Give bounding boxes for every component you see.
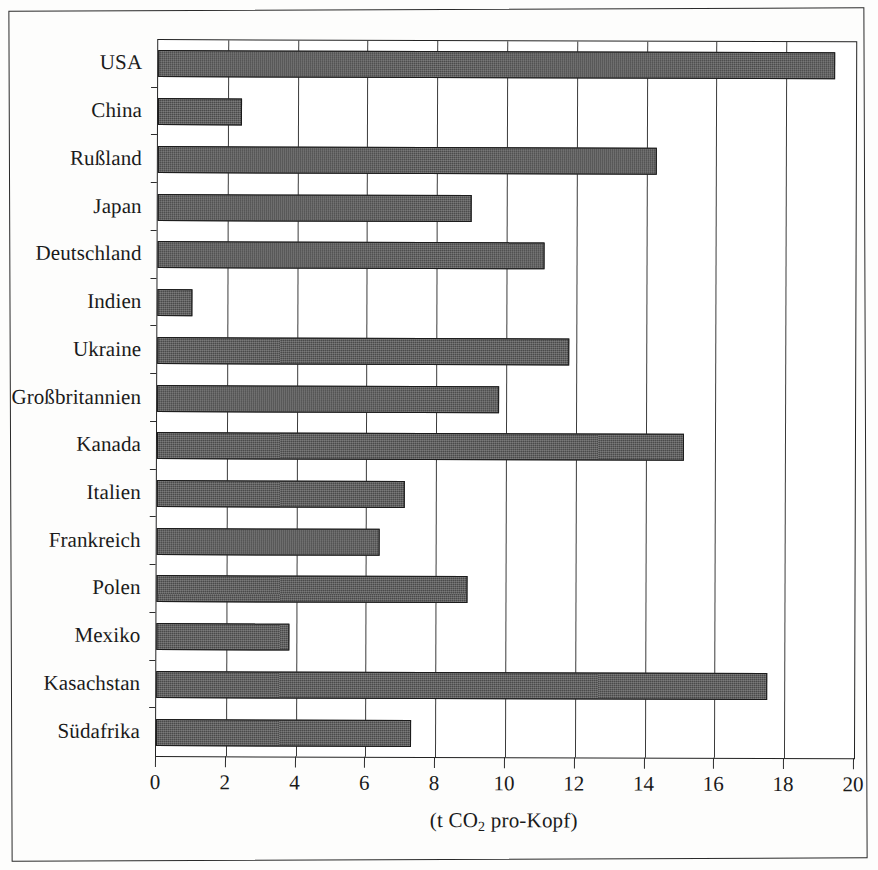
bar-row bbox=[158, 136, 856, 186]
y-axis-label-13: Kasachstan bbox=[7, 659, 149, 707]
x-axis-title-suffix: pro-Kopf) bbox=[485, 808, 577, 832]
y-axis-label-1: China bbox=[9, 86, 151, 134]
y-axis-label-3: Japan bbox=[9, 182, 151, 230]
chart-page: USAChinaRußlandJapanDeutschlandIndienUkr… bbox=[0, 0, 878, 870]
y-axis-label-12: Mexiko bbox=[7, 611, 149, 659]
x-axis-tick-label-10: 20 bbox=[842, 771, 863, 797]
bar-row bbox=[157, 231, 855, 281]
x-axis-tick-label-4: 8 bbox=[429, 770, 440, 796]
y-axis-label-7: Großbritannien bbox=[8, 373, 150, 421]
bar-row bbox=[158, 40, 856, 90]
bar-ukraine bbox=[157, 337, 569, 365]
bar-row bbox=[156, 565, 854, 615]
y-axis-label-8: Kanada bbox=[8, 421, 150, 469]
bar-row bbox=[157, 327, 855, 377]
x-axis-tick-label-5: 10 bbox=[493, 770, 514, 796]
bar-row bbox=[156, 661, 854, 711]
y-axis-label-0: USA bbox=[9, 39, 151, 87]
x-axis-tick-18 bbox=[783, 758, 784, 769]
x-axis-tick-10 bbox=[504, 757, 505, 768]
y-axis-label-5: Indien bbox=[8, 277, 150, 325]
x-axis-tick-label-0: 0 bbox=[150, 769, 161, 795]
bar-chart: USAChinaRußlandJapanDeutschlandIndienUkr… bbox=[0, 0, 878, 870]
bar-china bbox=[158, 98, 242, 125]
bar-row bbox=[157, 422, 855, 472]
bar-mexiko bbox=[156, 623, 289, 650]
x-axis-tick-labels: 02468101214161820 bbox=[155, 769, 853, 801]
bar-row bbox=[157, 470, 855, 520]
bar-row bbox=[157, 517, 855, 567]
bar-row bbox=[157, 279, 855, 329]
bar-row bbox=[158, 183, 856, 233]
bar-row bbox=[157, 374, 855, 424]
x-axis-tick-label-7: 14 bbox=[633, 771, 654, 797]
x-axis-tick-0 bbox=[155, 756, 156, 767]
bar-row bbox=[156, 708, 854, 758]
y-axis-label-4: Deutschland bbox=[8, 230, 150, 278]
bar-gro-britannien bbox=[157, 385, 499, 413]
x-axis-tick-label-6: 12 bbox=[563, 770, 584, 796]
y-axis-label-11: Polen bbox=[7, 564, 149, 612]
x-axis-tick-label-3: 6 bbox=[359, 770, 370, 796]
plot-area bbox=[155, 39, 857, 759]
bar-usa bbox=[158, 50, 835, 79]
x-axis-tick-20 bbox=[853, 758, 854, 769]
bar-italien bbox=[157, 480, 405, 508]
bar-kanada bbox=[157, 432, 684, 461]
bar-series bbox=[156, 40, 856, 758]
bar-ru-land bbox=[158, 146, 657, 175]
x-axis-tick-14 bbox=[644, 758, 645, 769]
bar-row bbox=[158, 88, 856, 138]
y-axis-label-6: Ukraine bbox=[8, 325, 150, 373]
x-axis-tick-label-9: 18 bbox=[773, 771, 794, 797]
y-axis-label-2: Rußland bbox=[9, 134, 151, 182]
bar-polen bbox=[156, 576, 467, 604]
x-axis-tick-16 bbox=[713, 758, 714, 769]
bar-kasachstan bbox=[156, 671, 767, 700]
x-axis-tick-4 bbox=[295, 757, 296, 768]
x-axis-tick-label-1: 2 bbox=[219, 769, 230, 795]
x-axis-tick-12 bbox=[574, 757, 575, 768]
y-axis-category-labels: USAChinaRußlandJapanDeutschlandIndienUkr… bbox=[7, 39, 151, 755]
x-axis-tick-label-2: 4 bbox=[289, 770, 300, 796]
x-axis-title: (t CO2 pro-Kopf) bbox=[155, 807, 853, 834]
x-axis-tick-8 bbox=[434, 757, 435, 768]
y-axis-label-9: Italien bbox=[8, 468, 150, 516]
bar-indien bbox=[157, 289, 192, 316]
x-axis-tick-label-8: 16 bbox=[703, 771, 724, 797]
y-axis-label-10: Frankreich bbox=[8, 516, 150, 564]
x-axis-tick-6 bbox=[364, 757, 365, 768]
x-axis-title-subscript: 2 bbox=[478, 819, 485, 834]
y-axis-label-14: Südafrika bbox=[7, 707, 149, 755]
x-axis-tick-2 bbox=[225, 756, 226, 767]
bar-frankreich bbox=[157, 528, 380, 556]
x-axis-ticks bbox=[155, 756, 853, 770]
bar-japan bbox=[158, 194, 472, 222]
bar-row bbox=[156, 613, 854, 663]
bar-s-dafrika bbox=[156, 719, 411, 747]
bar-deutschland bbox=[158, 241, 545, 269]
x-axis-title-prefix: (t CO bbox=[430, 808, 478, 832]
